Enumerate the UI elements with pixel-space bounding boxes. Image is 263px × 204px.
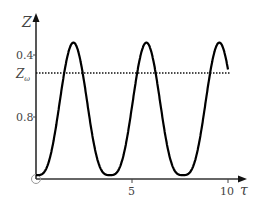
chart: 0.4 0.8 5 10 Z τ Zω	[0, 0, 263, 204]
y-tick-label-0.4: 0.8	[16, 111, 34, 124]
x-tick-label-5: 5	[128, 185, 135, 198]
z-curve	[36, 43, 228, 176]
x-axis-label: τ	[240, 182, 248, 198]
x-tick-label-10: 10	[220, 185, 234, 198]
y-axis-label: Z	[21, 14, 32, 30]
z-omega-label: Zω	[15, 67, 30, 83]
y-axis-arrow-icon	[33, 13, 40, 22]
y-tick-label-0.8: 0.4	[16, 49, 34, 62]
